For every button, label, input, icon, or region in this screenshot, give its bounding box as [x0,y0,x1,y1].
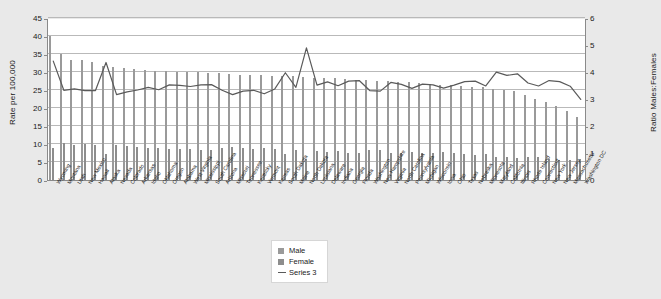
x-tick-label: Utah [76,182,81,185]
x-tick-label: Arizona [224,182,229,185]
x-tick-label: Wisconsin [435,182,440,185]
x-tick-label: Alabama [182,182,187,185]
x-tick-label: New York [551,182,556,185]
x-tick-label: Nebraska [477,182,482,185]
x-tick-label: Georgia [351,182,356,185]
x-tick-label: Mississippi [203,182,208,185]
x-tick-label: Washington [372,182,377,185]
x-tick-label: Oregon [171,182,176,185]
x-tick-label: Connecticut [541,182,546,185]
x-tick-label: Virginia [393,182,398,185]
gridline [48,17,585,18]
y-tick-label-left: 0 [16,177,42,185]
y-tick-label-left: 40 [16,33,42,41]
plot-area [47,19,585,181]
x-tick-label: Alaska [108,182,113,185]
x-tick-label: Maryland [498,182,503,185]
y-tick-label-right: 2 [590,123,616,131]
x-tick-label: Hawaii [97,182,102,185]
x-tick-label: Missouri [235,182,240,185]
y-tick-label-left: 45 [16,15,42,23]
x-tick-label: New Hampshire [382,182,387,185]
x-tick-label: Rhode Island [530,182,535,185]
x-tick-label: South Carolina [214,182,219,185]
x-tick-label: Tennessee [245,182,250,185]
x-tick-label: Maine [298,182,303,185]
x-tick-label: North Dakota [308,182,313,185]
y-tick-label-left: 15 [16,123,42,131]
x-tick-label: New Mexico [87,182,92,185]
y-tick-label-left: 30 [16,69,42,77]
legend-swatch-series3 [278,272,286,274]
y-tick-label-left: 20 [16,105,42,113]
legend-item-female: Female [278,256,317,267]
x-tick-label: Colorado [129,182,134,185]
x-tick-label: Indiana [340,182,345,185]
y-tick-label-left: 25 [16,87,42,95]
chart-container: Rate per 100,000 Ratio Males:Females 051… [0,0,661,299]
x-tick-label: Washington DC [583,182,588,185]
y-tick-label-right: 3 [590,96,616,104]
x-tick-label: South Dakota [287,182,292,185]
y-tick-label-left: 10 [16,141,42,149]
y-tick-label-right: 4 [590,69,616,77]
x-tick-label: Kentucky [256,182,261,185]
legend-label-female: Female [289,256,314,267]
legend-label-series3: Series 3 [289,267,317,278]
x-tick-label: Delaware [330,182,335,185]
x-tick-label: Nevada [119,182,124,185]
x-tick-label: Florida [361,182,366,185]
y-tick-label-right: 5 [590,42,616,50]
x-tick-label: Oklahoma [161,182,166,185]
x-tick-label: Texas [467,182,472,185]
y-tick-label-right: 0 [590,177,616,185]
x-tick-label: Michigan [424,182,429,185]
y-tick-label-right: 6 [590,15,616,23]
ratio-line [53,48,580,100]
x-tick-label: Iowa [446,182,451,185]
x-tick-label: Wyoming [55,182,60,185]
line-series-layer [48,19,586,181]
x-tick-label: Louisiana [319,182,324,185]
x-axis-labels: WyomingMontanaUtahNew MexicoHawaiiAlaska… [47,182,585,242]
x-tick-label: California [509,182,514,185]
x-tick-label: Kansas [277,182,282,185]
legend-item-series3: Series 3 [278,267,317,278]
x-tick-label: Arkansas [140,182,145,185]
x-tick-label: New Jersey [562,182,567,185]
y-axis-right-spine [585,19,586,182]
chart-legend: Male Female Series 3 [271,240,328,283]
x-tick-label: Massachusetts [572,182,577,185]
x-tick-label: Ohio [456,182,461,185]
x-tick-label: Pennsylvania [414,182,419,185]
y-tick-label-left: 35 [16,51,42,59]
y-axis-right-title: Ratio Males:Females [649,45,658,141]
x-tick-label: North Carolina [403,182,408,185]
legend-label-male: Male [289,245,305,256]
x-tick-label: Vermont [266,182,271,185]
x-tick-label: Montana [66,182,71,185]
legend-item-male: Male [278,245,317,256]
y-tick-label-left: 5 [16,159,42,167]
x-tick-label: Idaho [150,182,155,185]
legend-swatch-female [278,259,284,265]
x-tick-label: Illinois [519,182,524,185]
legend-swatch-male [278,248,284,254]
x-tick-label: Minnesota [488,182,493,185]
x-tick-label: West Virginia [192,182,197,185]
